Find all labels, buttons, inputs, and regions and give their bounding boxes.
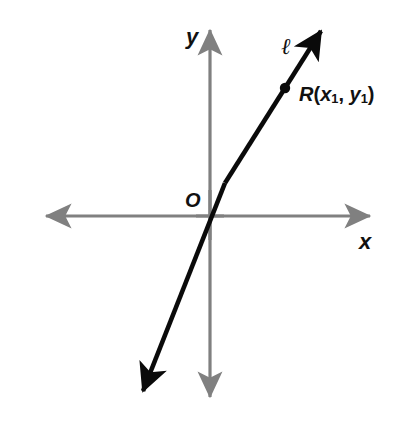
geometry-figure: y x O ℓ R(x1, y1) xyxy=(0,0,399,424)
line-l-upper-ray xyxy=(225,31,321,183)
point-r-x-var: x xyxy=(320,83,331,105)
point-r-comma: , xyxy=(338,83,344,105)
y-axis-label: y xyxy=(186,26,198,48)
point-r-close-paren: ) xyxy=(368,83,375,105)
point-r-y-subscript: 1 xyxy=(361,91,368,106)
origin-label: O xyxy=(185,190,201,210)
point-r-label: R(x1, y1) xyxy=(299,84,374,106)
point-r-name: R xyxy=(299,83,313,105)
point-r-y-var: y xyxy=(350,83,361,105)
line-l-lower-ray xyxy=(143,183,225,391)
line-l xyxy=(143,31,321,391)
line-l-label: ℓ xyxy=(281,35,291,58)
figure-canvas xyxy=(0,0,399,424)
x-axis-label: x xyxy=(359,231,371,253)
point-r-marker xyxy=(280,83,290,93)
